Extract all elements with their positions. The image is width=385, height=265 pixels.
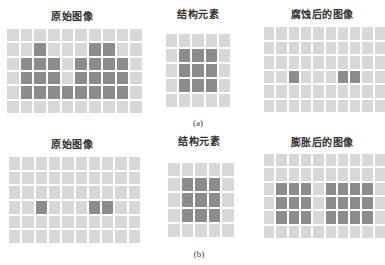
pixel-on — [289, 71, 299, 84]
pixel-off — [301, 71, 311, 84]
pixel-off — [22, 157, 33, 170]
pixel-off — [276, 100, 286, 113]
pixel-on — [289, 211, 299, 223]
pixel-off — [206, 94, 217, 107]
title-b-dilated: 膨胀后的图像 — [291, 134, 354, 149]
pixel-off — [219, 79, 230, 92]
pixel-off — [264, 168, 274, 180]
pixel-on — [75, 86, 87, 98]
pixel-off — [276, 27, 286, 40]
pixel-off — [62, 186, 73, 199]
pixel-off — [89, 157, 100, 170]
pixel-off — [62, 157, 73, 170]
pixel-off — [130, 29, 142, 41]
pixel-on — [209, 209, 221, 222]
pixel-off — [375, 100, 385, 113]
grid-b-original — [9, 157, 140, 243]
pixel-off — [362, 56, 372, 69]
pixel-off — [362, 100, 372, 113]
pixel-on — [48, 72, 60, 84]
pixel-on — [103, 72, 115, 84]
pixel-off — [34, 29, 46, 41]
pixel-off — [219, 94, 230, 107]
pixel-off — [289, 154, 299, 166]
pixel-on — [192, 64, 203, 77]
pixel-on — [206, 79, 217, 92]
pixel-off — [264, 100, 274, 113]
pixel-off — [326, 168, 336, 180]
pixel-off — [350, 100, 360, 113]
pixel-on — [301, 211, 311, 223]
pixel-on — [182, 178, 194, 191]
pixel-off — [264, 85, 274, 98]
pixel-off — [338, 154, 348, 166]
pixel-off — [115, 157, 126, 170]
pixel-off — [289, 27, 299, 40]
pixel-off — [289, 85, 299, 98]
pixel-off — [7, 101, 19, 113]
pixel-off — [350, 168, 360, 180]
pixel-off — [222, 178, 234, 191]
pixel-off — [130, 86, 142, 98]
pixel-off — [289, 56, 299, 69]
pixel-off — [62, 58, 74, 70]
pixel-off — [22, 201, 33, 214]
pixel-off — [276, 56, 286, 69]
pixel-off — [130, 101, 142, 113]
pixel-off — [350, 56, 360, 69]
pixel-off — [48, 43, 60, 55]
pixel-off — [130, 72, 142, 84]
pixel-off — [264, 42, 274, 55]
pixel-off — [179, 34, 190, 47]
pixel-off — [350, 85, 360, 98]
pixel-off — [219, 49, 230, 62]
pixel-off — [102, 186, 113, 199]
pixel-off — [276, 42, 286, 55]
pixel-off — [9, 216, 20, 229]
pixel-on — [75, 72, 87, 84]
pixel-off — [36, 230, 47, 243]
pixel-off — [313, 197, 323, 209]
pixel-off — [195, 163, 207, 176]
pixel-off — [313, 42, 323, 55]
pixel-off — [75, 101, 87, 113]
pixel-off — [9, 157, 20, 170]
pixel-off — [89, 216, 100, 229]
pixel-off — [75, 43, 87, 55]
pixel-on — [209, 178, 221, 191]
pixel-off — [326, 100, 336, 113]
pixel-off — [102, 230, 113, 243]
pixel-off — [301, 56, 311, 69]
title-b-original: 原始图像 — [51, 136, 93, 151]
pixel-off — [49, 172, 60, 185]
caption-a: (a) — [193, 118, 203, 128]
pixel-off — [301, 168, 311, 180]
pixel-off — [313, 100, 323, 113]
pixel-off — [182, 163, 194, 176]
pixel-on — [338, 211, 348, 223]
pixel-on — [326, 211, 336, 223]
pixel-on — [195, 209, 207, 222]
pixel-off — [115, 186, 126, 199]
pixel-off — [62, 72, 74, 84]
pixel-off — [7, 29, 19, 41]
pixel-off — [49, 230, 60, 243]
pixel-off — [117, 29, 129, 41]
pixel-off — [9, 230, 20, 243]
pixel-off — [264, 197, 274, 209]
pixel-off — [264, 226, 274, 238]
pixel-off — [9, 172, 20, 185]
pixel-off — [168, 209, 180, 222]
pixel-off — [102, 172, 113, 185]
pixel-off — [168, 178, 180, 191]
pixel-off — [219, 34, 230, 47]
pixel-off — [301, 226, 311, 238]
pixel-off — [264, 27, 274, 40]
pixel-off — [362, 27, 372, 40]
pixel-off — [375, 27, 385, 40]
pixel-on — [326, 183, 336, 195]
pixel-off — [289, 42, 299, 55]
pixel-off — [21, 29, 33, 41]
pixel-on — [89, 201, 100, 214]
grid-b-dilated — [264, 154, 385, 238]
